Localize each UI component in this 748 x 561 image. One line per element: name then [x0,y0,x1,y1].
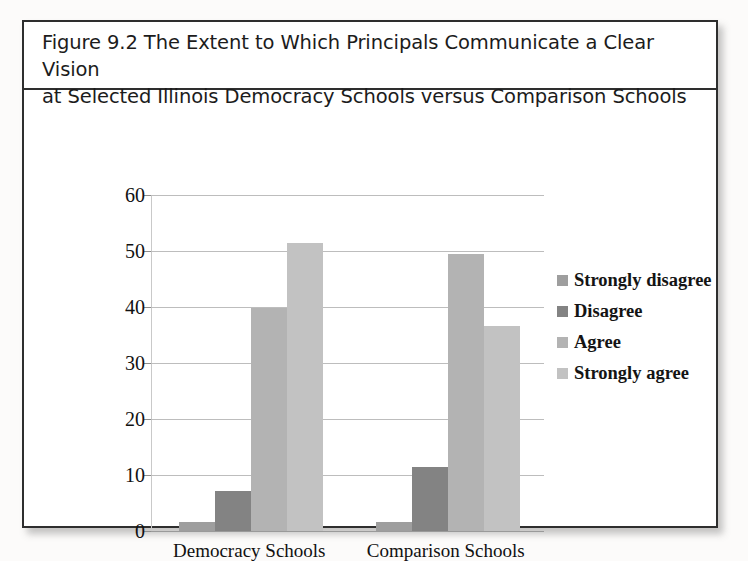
y-axis-tick-label: 50 [99,240,145,263]
figure-title-band: Figure 9.2 The Extent to Which Principal… [24,22,716,90]
bar-group [376,195,520,531]
legend-item: Disagree [557,296,712,327]
y-axis-tick-label: 10 [99,464,145,487]
legend-label: Strongly agree [574,363,689,384]
y-axis-tick-label: 20 [99,408,145,431]
bar [179,522,215,531]
chart-area: 0102030405060 Democracy SchoolsCompariso… [24,90,716,526]
y-axis-tick [144,419,151,420]
figure-title-line-1: Figure 9.2 The Extent to Which Principal… [42,29,700,83]
bar [484,326,520,531]
bar [376,522,412,531]
y-axis-tick [144,195,151,196]
y-axis-tick [144,475,151,476]
figure-frame: Figure 9.2 The Extent to Which Principal… [22,20,718,528]
bar [287,243,323,531]
gridline [151,531,544,532]
bar [215,491,251,531]
legend-item: Agree [557,327,712,358]
bar [412,467,448,531]
y-axis-tick-label: 30 [99,352,145,375]
legend-swatch-icon [557,306,568,317]
bar [251,308,287,531]
legend-swatch-icon [557,275,568,286]
x-axis-category-label: Comparison Schools [348,540,545,561]
legend-label: Strongly disagree [574,270,712,291]
y-axis-tick [144,307,151,308]
bar-group [179,195,323,531]
y-axis-tick-label: 60 [99,184,145,207]
y-axis-tick [144,363,151,364]
legend-item: Strongly disagree [557,265,712,296]
y-axis-tick-label: 0 [99,520,145,543]
legend-item: Strongly agree [557,358,712,389]
bar [448,254,484,531]
plot-bars [151,195,544,531]
legend-swatch-icon [557,368,568,379]
y-axis-tick-label: 40 [99,296,145,319]
chart-legend: Strongly disagreeDisagreeAgreeStrongly a… [557,265,712,389]
legend-label: Agree [574,332,621,353]
y-axis-tick [144,251,151,252]
legend-swatch-icon [557,337,568,348]
y-axis-tick [144,531,151,532]
legend-label: Disagree [574,301,643,322]
x-axis-category-label: Democracy Schools [151,540,348,561]
